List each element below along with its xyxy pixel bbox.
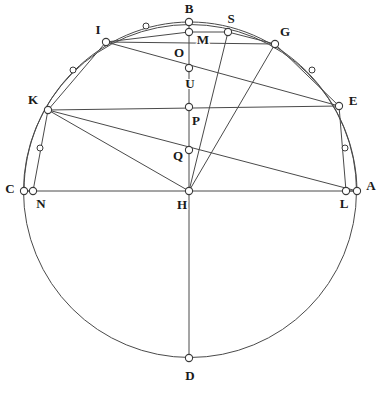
label-K: K	[28, 92, 39, 107]
point-node-P	[185, 103, 192, 110]
label-U: U	[185, 76, 195, 91]
label-M: M	[197, 32, 209, 47]
chord-segment-KA	[48, 110, 357, 191]
point-node-I	[102, 38, 109, 45]
point-node-O	[185, 64, 192, 71]
geometry-figure: B M S I G O U K E P Q C N H L A D	[0, 0, 384, 399]
arc-node-E-L	[342, 145, 348, 151]
arc-node-I-B	[143, 23, 149, 29]
point-node-C	[20, 187, 27, 194]
label-Q: Q	[173, 148, 183, 163]
chord-segment-IE	[106, 42, 339, 106]
label-O: O	[174, 45, 184, 60]
point-node-M	[185, 28, 192, 35]
ray-segment-HG	[189, 44, 275, 191]
point-node-E	[335, 102, 342, 109]
point-node-G	[271, 40, 278, 47]
label-I: I	[95, 22, 100, 37]
point-node-K	[44, 106, 51, 113]
label-A: A	[366, 178, 376, 193]
label-G: G	[280, 24, 290, 39]
point-node-A	[353, 187, 360, 194]
arc-node-K-N	[37, 145, 43, 151]
label-H: H	[177, 197, 187, 212]
arc-node-K-I	[70, 67, 76, 73]
label-E: E	[349, 93, 358, 108]
label-L: L	[340, 196, 349, 211]
ray-segment-HS	[189, 32, 228, 191]
point-node-L	[342, 187, 349, 194]
label-D: D	[185, 368, 194, 383]
diagram-canvas: B M S I G O U K E P Q C N H L A D	[0, 0, 384, 399]
point-node-N	[29, 187, 36, 194]
point-node-D	[185, 354, 192, 361]
label-C: C	[5, 181, 14, 196]
point-node-S	[224, 28, 231, 35]
label-P: P	[192, 113, 200, 128]
point-node-H	[185, 187, 192, 194]
label-B: B	[185, 1, 194, 16]
point-node-B	[185, 18, 192, 25]
chord-segment-KE	[48, 106, 339, 110]
arc-node-G-E	[309, 67, 315, 73]
chord-segment-IG	[106, 42, 275, 44]
ray-segment-HK	[48, 110, 189, 191]
point-node-Q	[185, 146, 192, 153]
label-N: N	[36, 196, 46, 211]
label-S: S	[227, 11, 234, 26]
